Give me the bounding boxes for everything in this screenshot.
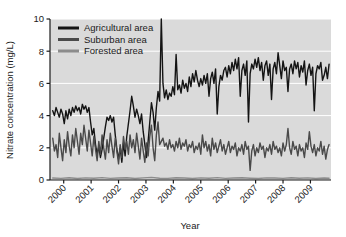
legend-label-2: Forested area [84,45,144,56]
y-tick-label: 8 [39,46,44,57]
y-tick-label: 0 [39,174,44,185]
chart-legend: Agricultural areaSuburban areaForested a… [58,22,154,56]
y-tick-label: 10 [33,13,44,24]
y-tick-label: 2 [39,142,44,153]
legend-label-1: Suburban area [84,34,148,45]
x-axis-label: Year [180,220,199,231]
y-tick-label: 4 [39,110,44,121]
nitrate-concentration-chart: 0246810 20002001200220032004200520062007… [0,0,346,237]
y-axis-label: Nitrate concentration (mg/L) [4,41,15,159]
chart-canvas: 0246810 20002001200220032004200520062007… [0,0,346,237]
y-tick-label: 6 [39,78,44,89]
legend-label-0: Agricultural area [84,22,154,33]
